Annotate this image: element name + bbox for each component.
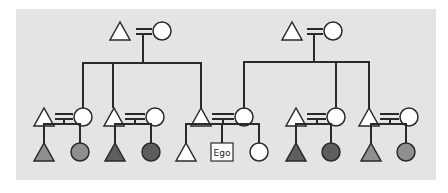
male-triangle: [286, 143, 306, 161]
ego-label: Ego: [214, 148, 231, 158]
male-triangle: [176, 143, 196, 161]
female-circle: [397, 143, 415, 161]
male-triangle: [110, 22, 130, 40]
male-triangle: [34, 143, 54, 161]
siblings-of-c4: [286, 123, 340, 161]
female-circle: [250, 143, 268, 161]
male-triangle: [361, 143, 381, 161]
siblings-of-c2: [105, 123, 160, 161]
female-circle: [153, 22, 171, 40]
female-circle: [324, 22, 342, 40]
couple-grandparents-right: [282, 22, 342, 62]
female-circle: [322, 143, 340, 161]
male-triangle: [282, 22, 302, 40]
siblings-of-c1: [34, 123, 89, 161]
siblings-of-c5: [361, 123, 415, 161]
couple-grandparents-left: [110, 22, 171, 63]
female-circle: [142, 143, 160, 161]
kinship-diagram: Ego: [0, 0, 448, 193]
female-circle: [71, 143, 89, 161]
male-triangle: [105, 143, 125, 161]
